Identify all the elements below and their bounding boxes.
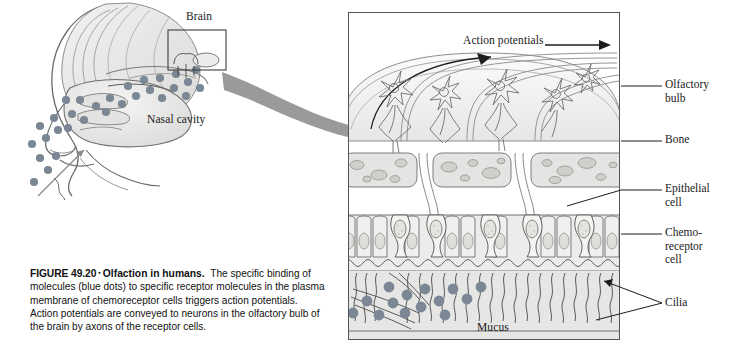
figure-number: FIGURE 49.20	[30, 268, 96, 279]
callout-chemoreceptor-cell: Chemo- receptor cell	[665, 226, 703, 267]
callout-line-2: cell	[665, 196, 710, 210]
label-mucus: Mucus	[477, 321, 509, 333]
bone-segments	[349, 153, 620, 187]
callout-line-1: Bone	[665, 133, 689, 147]
callout-line-2: bulb	[665, 92, 709, 106]
callout-line-1: Epithelial	[665, 182, 710, 196]
callout-line-1: Cilia	[665, 296, 687, 310]
callout-line-2: receptor	[665, 240, 703, 254]
label-action-potentials: Action potentials	[463, 34, 544, 46]
callout-epithelial-cell: Epithelial cell	[665, 182, 710, 209]
callout-cilia: Cilia	[665, 296, 687, 310]
figure-root: Brain Nasal cavity	[0, 0, 749, 352]
callout-line-1: Olfactory	[665, 78, 709, 92]
callout-olfactory-bulb: Olfactory bulb	[665, 78, 709, 105]
callout-line-1: Chemo-	[665, 226, 703, 240]
olfactory-detail-illustration	[349, 13, 620, 340]
callout-bone: Bone	[665, 133, 689, 147]
figure-title: Olfaction in humans.	[103, 268, 205, 279]
figure-caption: FIGURE 49.20▪Olfaction in humans. The sp…	[30, 266, 326, 333]
callout-line-3: cell	[665, 253, 703, 267]
olfactory-detail-panel	[348, 12, 620, 340]
